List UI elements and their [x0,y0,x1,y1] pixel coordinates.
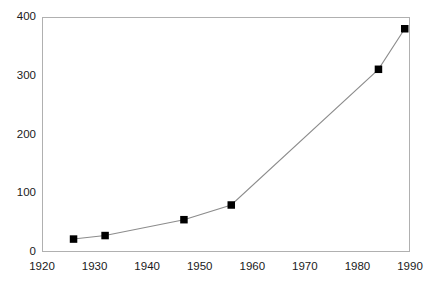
data-point-marker [70,235,78,243]
line-chart-figure: 0100200300400 19201930194019501960197019… [0,0,425,285]
data-point-marker [375,66,383,74]
x-tick-label: 1950 [173,261,227,273]
x-axis: 19201930194019501960197019801990 [0,261,425,281]
x-tick-label: 1930 [68,261,122,273]
x-tick-label: 1990 [383,261,425,273]
x-tick-label: 1960 [225,261,279,273]
series-line [74,29,405,239]
plot-canvas [42,17,410,252]
y-tick-label: 200 [2,129,36,141]
y-axis: 0100200300400 [0,0,36,285]
series-markers [70,25,409,243]
data-point-marker [101,232,109,240]
y-tick-label: 300 [2,70,36,82]
x-tick-label: 1970 [278,261,332,273]
data-point-marker [401,25,409,33]
y-tick-label: 0 [2,246,36,258]
x-tick-label: 1940 [120,261,174,273]
x-tick-label: 1920 [15,261,69,273]
data-point-marker [180,216,188,224]
x-tick-label: 1980 [330,261,384,273]
y-tick-label: 100 [2,187,36,199]
data-point-marker [228,201,236,209]
y-tick-label: 400 [2,11,36,23]
